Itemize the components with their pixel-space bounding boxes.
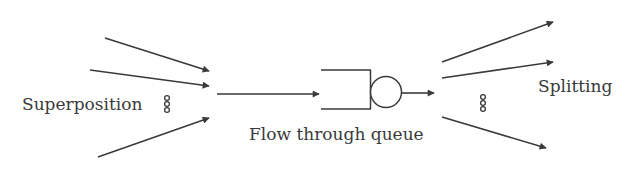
vertical-dots-icon <box>481 95 486 112</box>
queue-icon <box>321 70 402 109</box>
superposition-splitting-diagram: Superposition Flow through queue Splitti… <box>0 0 633 169</box>
vertical-dots-icon <box>165 96 170 113</box>
outgoing-arrow-3 <box>442 117 546 148</box>
splitting-label: Splitting <box>538 76 612 96</box>
superposition-label: Superposition <box>22 94 142 114</box>
queue-label: Flow through queue <box>249 124 424 144</box>
incoming-arrow-2 <box>90 70 209 86</box>
server-icon <box>371 77 402 108</box>
incoming-arrow-1 <box>105 38 209 71</box>
outgoing-arrow-1 <box>442 22 553 62</box>
outgoing-flows <box>442 22 553 148</box>
incoming-arrow-3 <box>98 118 209 157</box>
outgoing-arrow-2 <box>442 62 553 78</box>
